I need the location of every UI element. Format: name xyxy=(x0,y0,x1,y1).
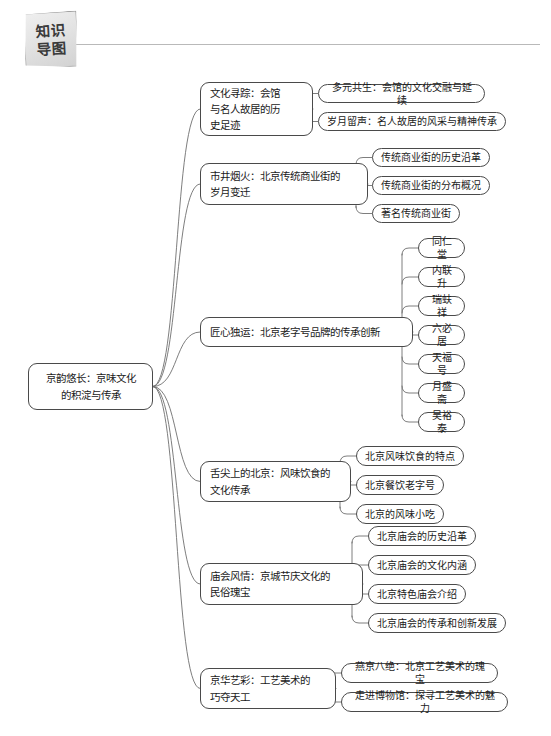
mindmap-branch-node-1[interactable]: 文化寻踪：会馆 与名人故居的历 史足迹 xyxy=(200,82,313,136)
mindmap-leaf-node-6-2[interactable]: 走进博物馆：探寻工艺美术的魅力 xyxy=(341,692,508,712)
mindmap-leaf-node-1-2-label: 岁月留声：名人故居的风采与精神传承 xyxy=(327,115,497,128)
mindmap-branch-node-2-label: 市井烟火：北京传统商业街的 岁月变迁 xyxy=(210,168,340,201)
mindmap-leaf-node-3-2[interactable]: 内联升 xyxy=(418,267,465,287)
header-divider xyxy=(72,44,540,45)
mindmap-branch-node-4[interactable]: 舌尖上的北京：风味饮食的 文化传承 xyxy=(200,461,351,502)
connector-edge xyxy=(402,357,418,364)
mindmap-leaf-node-6-2-label: 走进博物馆：探寻工艺美术的魅力 xyxy=(350,689,499,715)
mindmap-leaf-node-4-3[interactable]: 北京的风味小吃 xyxy=(356,504,444,524)
connector-edge xyxy=(153,109,200,387)
mindmap-leaf-node-3-3-label: 瑞蚨祥 xyxy=(427,293,456,319)
connector-edge xyxy=(402,306,418,313)
mindmap-leaf-node-3-3[interactable]: 瑞蚨祥 xyxy=(418,296,465,316)
mindmap-leaf-node-5-4[interactable]: 北京庙会的传承和创新发展 xyxy=(368,613,506,633)
connector-edge xyxy=(402,248,418,255)
mindmap-root-node[interactable]: 京韵悠长：京味文化 的积淀与传承 xyxy=(28,363,153,410)
mindmap-leaf-node-3-7-label: 吴裕泰 xyxy=(427,409,456,435)
connector-edge xyxy=(402,277,418,284)
mindmap-branch-node-6-label: 京华艺彩：工艺美术的 巧夺天工 xyxy=(210,672,310,705)
mindmap-leaf-node-1-1-label: 多元共生：会馆的文化交融与延续 xyxy=(327,81,476,107)
mindmap-leaf-node-3-1-label: 同仁堂 xyxy=(427,235,456,261)
mindmap-leaf-node-2-2-label: 传统商业街的分布概况 xyxy=(381,179,481,192)
mindmap-leaf-node-5-4-label: 北京庙会的传承和创新发展 xyxy=(377,617,497,630)
mindmap-leaf-node-5-3[interactable]: 北京特色庙会介绍 xyxy=(368,584,466,604)
badge-label-line2: 导图 xyxy=(37,40,67,58)
mindmap-branch-node-2[interactable]: 市井烟火：北京传统商业街的 岁月变迁 xyxy=(200,163,368,205)
connector-edge xyxy=(352,536,368,543)
connector-edge xyxy=(153,387,200,585)
mindmap-leaf-node-5-3-label: 北京特色庙会介绍 xyxy=(377,588,457,601)
mindmap-leaf-node-5-2[interactable]: 北京庙会的文化内涵 xyxy=(368,555,476,575)
mindmap-leaf-node-3-5-label: 天福号 xyxy=(427,351,456,377)
connector-edge xyxy=(153,387,200,482)
mindmap-leaf-node-1-2[interactable]: 岁月留声：名人故居的风采与精神传承 xyxy=(318,112,506,131)
mindmap-branch-node-1-label: 文化寻踪：会馆 与名人故居的历 史足迹 xyxy=(210,85,280,134)
mindmap-root-node-label: 京韵悠长：京味文化 的积淀与传承 xyxy=(46,370,136,403)
connector-edge xyxy=(153,184,200,387)
mindmap-branch-node-6[interactable]: 京华艺彩：工艺美术的 巧夺天工 xyxy=(200,668,336,709)
mindmap-leaf-node-2-1[interactable]: 传统商业街的历史沿革 xyxy=(372,148,490,167)
connector-edge xyxy=(402,415,418,422)
mindmap-leaf-node-1-1[interactable]: 多元共生：会馆的文化交融与延续 xyxy=(318,84,485,103)
connector-edge xyxy=(402,386,418,393)
connector-edge xyxy=(153,387,200,689)
mindmap-leaf-node-3-1[interactable]: 同仁堂 xyxy=(418,238,465,258)
mindmap-leaf-node-2-1-label: 传统商业街的历史沿革 xyxy=(381,151,481,164)
connector-edge xyxy=(340,507,356,514)
mindmap-leaf-node-5-1[interactable]: 北京庙会的历史沿革 xyxy=(368,526,476,546)
mindmap-leaf-node-6-1[interactable]: 燕京八绝：北京工艺美术的瑰宝 xyxy=(341,663,498,683)
mindmap-leaf-node-4-3-label: 北京的风味小吃 xyxy=(365,508,435,521)
mindmap-leaf-node-3-2-label: 内联升 xyxy=(427,264,456,290)
mindmap-branch-node-3-label: 匠心独运：北京老字号品牌的传承创新 xyxy=(210,324,380,340)
mindmap-branch-node-5[interactable]: 庙会风情：京城节庆文化的 民俗瑰宝 xyxy=(200,563,363,605)
mindmap-leaf-node-6-1-label: 燕京八绝：北京工艺美术的瑰宝 xyxy=(350,660,489,686)
mindmap-leaf-node-2-3[interactable]: 著名传统商业街 xyxy=(372,204,460,223)
connector-edge xyxy=(356,207,372,214)
mindmap-leaf-node-4-1-label: 北京风味饮食的特点 xyxy=(365,450,455,463)
mindmap-leaf-node-3-4[interactable]: 六必居 xyxy=(418,325,465,345)
mindmap-leaf-node-3-6-label: 月盛斋 xyxy=(427,380,456,406)
mindmap-leaf-node-5-2-label: 北京庙会的文化内涵 xyxy=(377,559,467,572)
mindmap-branch-node-5-label: 庙会风情：京城节庆文化的 民俗瑰宝 xyxy=(210,568,330,601)
mindmap-leaf-node-2-3-label: 著名传统商业街 xyxy=(381,207,451,220)
mindmap-branch-node-3[interactable]: 匠心独运：北京老字号品牌的传承创新 xyxy=(200,317,413,347)
mindmap-leaf-node-3-4-label: 六必居 xyxy=(427,322,456,348)
mindmap-leaf-node-4-2-label: 北京餐饮老字号 xyxy=(365,479,435,492)
mindmap-leaf-node-2-2[interactable]: 传统商业街的分布概况 xyxy=(372,176,490,195)
connector-edge xyxy=(153,332,200,387)
mindmap-leaf-node-4-2[interactable]: 北京餐饮老字号 xyxy=(356,475,444,495)
mindmap-branch-node-4-label: 舌尖上的北京：风味饮食的 文化传承 xyxy=(210,465,330,498)
badge-label-line1: 知识 xyxy=(36,22,66,40)
mindmap-leaf-node-3-6[interactable]: 月盛斋 xyxy=(418,383,465,403)
mindmap-leaf-node-5-1-label: 北京庙会的历史沿革 xyxy=(377,530,467,543)
connector-edge xyxy=(352,616,368,623)
knowledge-map-badge: 知识 导图 xyxy=(22,11,79,70)
mindmap-leaf-node-3-7[interactable]: 吴裕泰 xyxy=(418,412,465,432)
mindmap-leaf-node-4-1[interactable]: 北京风味饮食的特点 xyxy=(356,446,464,466)
mindmap-leaf-node-3-5[interactable]: 天福号 xyxy=(418,354,465,374)
badge-text: 知识 导图 xyxy=(22,11,79,70)
